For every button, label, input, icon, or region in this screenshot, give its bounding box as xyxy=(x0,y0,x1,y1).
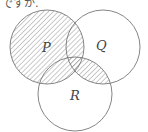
label-p: P xyxy=(41,40,51,55)
label-q: Q xyxy=(96,38,107,53)
label-r: R xyxy=(69,88,80,103)
venn-diagram: P Q R xyxy=(0,0,148,132)
